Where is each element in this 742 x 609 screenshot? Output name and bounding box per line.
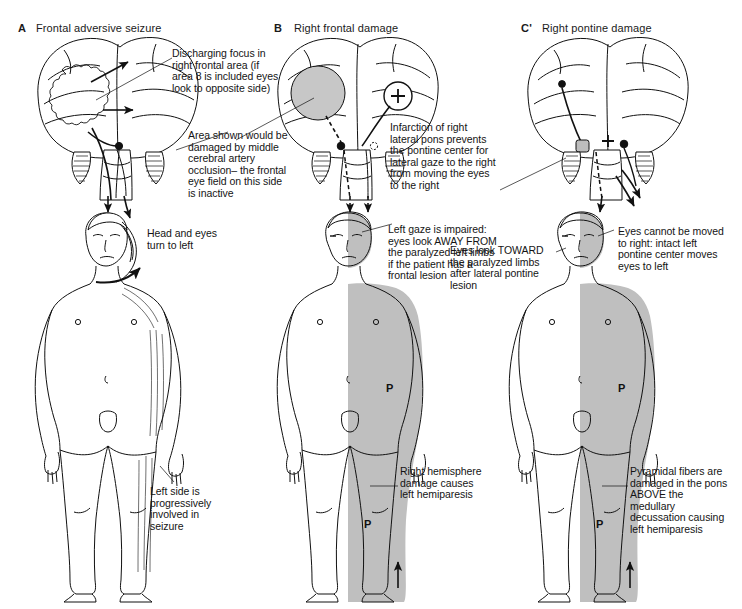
panel-label-b: B bbox=[274, 22, 282, 34]
note-pyramidal-fibers: Pyramidal fibers are damaged in the pons… bbox=[630, 466, 730, 536]
panel-title-b: Right frontal damage bbox=[294, 22, 398, 34]
note-pontine-infarction: Infarction of right lateral pons prevent… bbox=[390, 122, 496, 192]
p-marker-c-leg: P bbox=[596, 518, 603, 530]
note-discharging-focus: Discharging focus in right frontal area … bbox=[172, 48, 280, 94]
panel-c-brain bbox=[500, 37, 688, 212]
panel-a-body bbox=[35, 213, 183, 602]
p-marker-c-arm: P bbox=[618, 382, 625, 394]
note-right-hemisphere-damage: Right hemisphere damage causes left hemi… bbox=[400, 466, 484, 501]
p-marker-b-leg: P bbox=[364, 518, 371, 530]
note-head-and-eyes-turn: Head and eyes turn to left bbox=[147, 228, 221, 251]
panel-label-a: A bbox=[18, 22, 26, 34]
panel-title-c: Right pontine damage bbox=[542, 22, 652, 34]
panel-title-a: Frontal adversive seizure bbox=[36, 22, 161, 34]
note-eyes-cannot-move-right: Eyes cannot be moved to right: intact le… bbox=[618, 226, 726, 272]
note-left-side-seizure: Left side is progressively involved in s… bbox=[150, 486, 228, 532]
panel-label-c: C' bbox=[521, 22, 532, 34]
note-mca-occlusion: Area shown would be damaged by middle ce… bbox=[188, 130, 288, 200]
p-marker-b-arm: P bbox=[386, 382, 393, 394]
note-eyes-look-toward: Eyes look TOWARD the paralyzed limbs aft… bbox=[450, 245, 550, 291]
figure-canvas: A Frontal adversive seizure Discharging … bbox=[0, 0, 742, 609]
